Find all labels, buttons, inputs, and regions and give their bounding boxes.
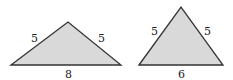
triangle-1-base-label: 8 bbox=[65, 68, 72, 80]
triangles-diagram: 5 5 8 5 5 6 bbox=[0, 0, 233, 80]
triangle-1-left-label: 5 bbox=[31, 32, 38, 45]
triangle-2-left-label: 5 bbox=[151, 25, 158, 38]
triangle-1-right-label: 5 bbox=[98, 32, 105, 45]
triangle-2-right-label: 5 bbox=[204, 25, 211, 38]
triangle-2-base-label: 6 bbox=[178, 68, 185, 80]
triangle-1: 5 5 8 bbox=[11, 22, 121, 80]
triangle-2: 5 5 6 bbox=[139, 7, 223, 80]
